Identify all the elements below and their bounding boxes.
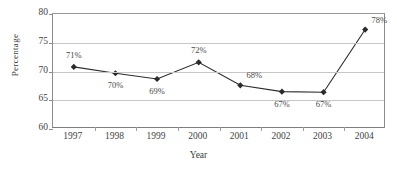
data-point-marker	[154, 76, 160, 82]
y-tick-label: 80	[26, 8, 48, 18]
x-tick-label: 2004	[340, 131, 388, 141]
data-point-label: 72%	[191, 45, 207, 55]
data-point-label: 68%	[247, 70, 263, 80]
y-tick-mark	[49, 72, 53, 73]
data-point-label: 70%	[108, 80, 124, 90]
data-point-label: 78%	[371, 15, 387, 25]
x-axis-title: Year	[0, 150, 397, 160]
data-point-label: 67%	[274, 99, 290, 109]
y-axis-title: Percentage	[10, 15, 20, 95]
data-point-marker	[237, 82, 243, 88]
y-tick-mark	[49, 100, 53, 101]
data-point-label: 67%	[316, 99, 332, 109]
y-tick-mark	[49, 14, 53, 15]
y-axis-tick-labels: 6065707580	[22, 0, 48, 173]
gridline	[53, 72, 384, 73]
data-point-marker	[279, 89, 285, 95]
data-point-marker	[71, 64, 77, 70]
data-point-marker	[320, 89, 326, 95]
y-tick-mark	[49, 43, 53, 44]
data-point-marker	[362, 26, 368, 32]
data-point-marker	[196, 59, 202, 65]
data-point-label: 71%	[66, 50, 82, 60]
y-tick-label: 60	[26, 123, 48, 133]
line-chart: Percentage 6065707580 71%70%69%72%68%67%…	[0, 0, 397, 173]
y-tick-label: 75	[26, 37, 48, 47]
y-tick-label: 70	[26, 66, 48, 76]
data-point-label: 69%	[149, 86, 165, 96]
y-tick-mark	[49, 129, 53, 130]
gridline	[53, 100, 384, 101]
plot-area: 71%70%69%72%68%67%67%78%	[52, 13, 385, 128]
y-tick-label: 65	[26, 94, 48, 104]
gridline	[53, 43, 384, 44]
